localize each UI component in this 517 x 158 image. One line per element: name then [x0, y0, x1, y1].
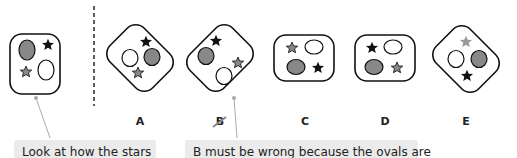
white-oval	[384, 40, 402, 54]
white-oval	[305, 40, 323, 54]
callout-pointer-left	[36, 98, 50, 138]
option-label-c: C	[301, 115, 309, 128]
option-e[interactable]	[428, 21, 504, 97]
white-oval	[216, 68, 232, 85]
option-b[interactable]	[182, 20, 258, 96]
gray-oval	[198, 48, 214, 65]
white-oval	[448, 51, 464, 68]
gray-oval	[365, 60, 383, 75]
option-a[interactable]	[102, 20, 178, 96]
gray-oval	[471, 51, 487, 68]
option-label-e: E	[462, 115, 470, 128]
option-frame	[182, 20, 258, 96]
option-frame	[355, 35, 415, 81]
option-frame	[102, 20, 178, 96]
option-frame	[428, 21, 504, 97]
option-label-d: D	[380, 115, 389, 128]
callout-pointer-right	[234, 98, 237, 138]
gray-oval	[287, 60, 305, 75]
callout-right: B must be wrong because the ovals are	[185, 140, 418, 158]
reference-figure	[10, 34, 60, 94]
option-d[interactable]	[355, 35, 415, 81]
option-label-a: A	[136, 115, 145, 128]
white-oval	[38, 60, 54, 80]
option-frame	[274, 35, 334, 81]
white-oval	[122, 50, 138, 67]
gray-oval	[19, 40, 35, 60]
gray-oval	[144, 49, 160, 66]
pointer-dot	[34, 96, 38, 100]
option-c[interactable]	[274, 35, 334, 81]
puzzle-figure: A B C D E	[0, 0, 517, 158]
callout-left: Look at how the stars	[14, 140, 156, 158]
